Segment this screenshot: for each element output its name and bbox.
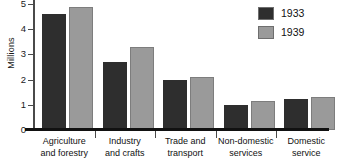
category-label: Trade andtransport [155, 136, 216, 159]
category-label: Industryand crafts [95, 136, 156, 159]
x-axis-baseline [25, 128, 329, 131]
bar-1939-2 [130, 47, 154, 130]
category-label-line: service [276, 148, 337, 160]
category-label-line: Non-domestic [216, 136, 277, 148]
y-axis-tick-label: 3 [8, 49, 26, 58]
category-label-line: and crafts [95, 148, 156, 160]
y-axis-tick-label: 2 [8, 75, 26, 84]
bar-1933-2 [103, 62, 127, 130]
y-axis-tick [28, 105, 35, 106]
category-label-line: and forestry [34, 148, 95, 160]
category-label-line: Domestic [276, 136, 337, 148]
legend-item-1939: 1939 [258, 25, 326, 40]
category-label-line: Trade and [155, 136, 216, 148]
category-label: Domesticservice [276, 136, 337, 159]
x-axis-category-labels: Agricultureand forestryIndustryand craft… [25, 136, 329, 163]
y-axis-tick-label: 4 [8, 24, 26, 33]
y-axis-tick [28, 29, 35, 30]
bar-group [157, 0, 218, 130]
bar-1939-5 [311, 97, 335, 130]
category-label-line: services [216, 148, 277, 160]
y-axis-tick-label: 0 [8, 125, 26, 134]
y-axis-tick-label: 5 [8, 0, 26, 8]
bar-group [36, 0, 97, 130]
bar-1939-3 [190, 77, 214, 130]
y-axis-tick [28, 54, 35, 55]
y-axis-tick [28, 4, 35, 5]
bar-group [97, 0, 158, 130]
category-label-line: Agriculture [34, 136, 95, 148]
category-label: Agricultureand forestry [34, 136, 95, 159]
y-axis-tick-label: 1 [8, 100, 26, 109]
bar-1933-5 [284, 99, 308, 131]
y-axis-tick [28, 80, 35, 81]
category-label: Non-domesticservices [216, 136, 277, 159]
legend-label: 1939 [281, 27, 304, 38]
legend-label: 1933 [281, 8, 304, 19]
legend-item-1933: 1933 [258, 6, 326, 21]
bar-1933-3 [163, 80, 187, 130]
legend: 19331939 [258, 6, 326, 44]
bar-1939-1 [69, 7, 93, 130]
bar-1933-1 [42, 14, 66, 130]
legend-swatch [258, 26, 274, 39]
bar-1939-4 [251, 101, 275, 130]
legend-swatch [258, 7, 274, 20]
category-label-line: transport [155, 148, 216, 160]
category-label-line: Industry [95, 136, 156, 148]
bar-1933-4 [224, 105, 248, 130]
